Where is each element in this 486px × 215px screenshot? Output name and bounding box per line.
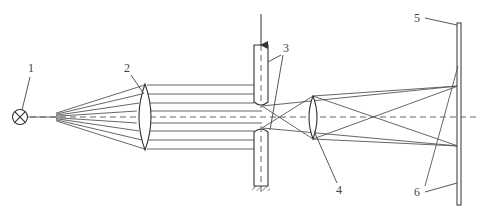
top-cylinder [254, 45, 268, 108]
label-6: 6 [414, 185, 420, 199]
label-4: 4 [336, 183, 342, 197]
optical-setup-diagram: 1 2 3 4 5 6 [0, 0, 486, 215]
image-line-6 [425, 66, 458, 186]
bottom-cylinder [252, 126, 270, 196]
leader-lines [22, 18, 457, 192]
label-3: 3 [283, 41, 289, 55]
label-5: 5 [414, 11, 420, 25]
label-1: 1 [28, 61, 34, 75]
crossing-rays [262, 86, 458, 146]
light-source-icon [13, 110, 57, 125]
screen [457, 23, 461, 205]
label-2: 2 [124, 61, 130, 75]
